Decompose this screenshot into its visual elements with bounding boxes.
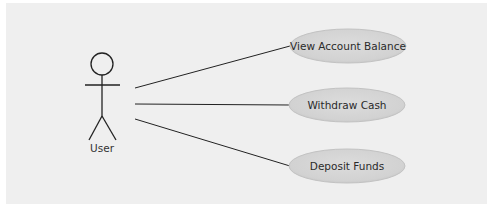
actor-left-leg [89, 116, 102, 140]
use-case-label: View Account Balance [290, 40, 406, 52]
use-case-deposit-funds[interactable]: Deposit Funds [289, 149, 405, 183]
actor-head-icon [91, 53, 113, 75]
actor-user[interactable]: User [85, 53, 120, 154]
association-deposit-funds [135, 119, 290, 166]
use-case-diagram: User View Account Balance Withdraw Cash … [0, 0, 493, 212]
use-case-withdraw-cash[interactable]: Withdraw Cash [289, 88, 405, 122]
association-view-balance [135, 46, 290, 88]
use-case-view-account-balance[interactable]: View Account Balance [290, 29, 406, 63]
actor-right-leg [102, 116, 116, 140]
use-case-label: Deposit Funds [310, 160, 384, 172]
association-withdraw-cash [135, 104, 290, 105]
actor-label: User [90, 142, 115, 154]
use-case-label: Withdraw Cash [307, 99, 386, 111]
